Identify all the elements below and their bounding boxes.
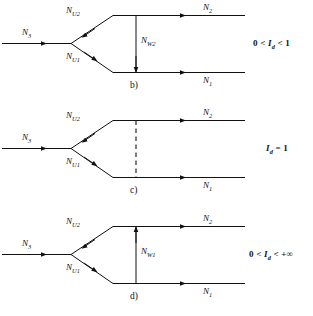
diagram-panel-b: N3 NU2 NU1 NW2 N2 N1 b) 0 < Id < 1 xyxy=(0,0,313,100)
label-branch-lower-c: NU1 xyxy=(66,157,80,166)
panel-b-lines xyxy=(0,0,313,100)
diagram-panel-d: N3 NU2 NU1 NW1 N2 N1 d) 0 < Id < +∞ xyxy=(0,211,313,311)
label-incoming-b: N3 xyxy=(22,28,31,37)
condition-b: 0 < Id < 1 xyxy=(253,38,290,48)
label-branch-lower-b: NU1 xyxy=(66,52,80,61)
label-exchange-b: NW2 xyxy=(141,36,156,45)
label-incoming-d: N3 xyxy=(22,239,31,248)
label-outgoing-lower-b: N1 xyxy=(203,76,212,85)
label-outgoing-lower-d: N1 xyxy=(203,287,212,296)
label-branch-lower-d: NU1 xyxy=(66,263,80,272)
panel-d-lines xyxy=(0,211,313,311)
condition-d: 0 < Id < +∞ xyxy=(249,249,293,259)
label-outgoing-upper-b: N2 xyxy=(203,3,212,12)
label-branch-upper-d: NU2 xyxy=(66,217,80,226)
panel-c-lines xyxy=(0,105,313,205)
panel-label-d: d) xyxy=(130,291,138,301)
label-outgoing-upper-d: N2 xyxy=(203,214,212,223)
figure-canvas: N3 NU2 NU1 NW2 N2 N1 b) 0 < Id < 1 xyxy=(0,0,313,316)
label-outgoing-upper-c: N2 xyxy=(203,108,212,117)
panel-label-b: b) xyxy=(130,80,138,90)
label-exchange-d: NW1 xyxy=(141,247,156,256)
diagram-panel-c: N3 NU2 NU1 N2 N1 c) Id = 1 xyxy=(0,105,313,205)
label-outgoing-lower-c: N1 xyxy=(203,181,212,190)
condition-c: Id = 1 xyxy=(266,143,288,153)
label-incoming-c: N3 xyxy=(22,133,31,142)
label-branch-upper-c: NU2 xyxy=(66,111,80,120)
panel-label-c: c) xyxy=(130,185,137,195)
label-branch-upper-b: NU2 xyxy=(66,6,80,15)
